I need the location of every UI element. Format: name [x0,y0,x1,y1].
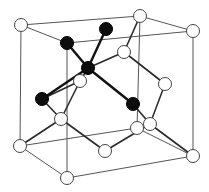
atom [55,113,68,126]
bond [150,124,193,156]
atom [61,172,74,185]
atom [187,150,200,163]
cube-edge [20,128,137,146]
cube-edge [20,25,21,146]
atom [159,78,172,91]
highlighted-atom [127,98,140,111]
highlighted-atom [61,37,74,50]
atom [14,140,27,153]
diamond-cubic-diagram [0,0,209,192]
atom [187,25,200,38]
atom [74,75,87,88]
atom [144,118,157,131]
highlighted-atom [100,23,113,36]
atom [118,46,131,59]
atom [99,145,112,158]
atoms [14,10,200,185]
cube-edge [137,128,193,156]
atom [15,19,28,32]
tetrahedral-bond [88,68,133,104]
cube-edge [67,156,193,178]
cube-edge [21,16,140,25]
cube-edge [20,146,67,178]
atom [131,122,144,135]
cube-edge [140,16,193,31]
atom [134,10,147,23]
cube-edge [21,25,67,43]
bond [61,119,105,151]
bond [124,52,165,84]
bond [20,119,61,146]
highlighted-atom [36,93,49,106]
highlighted-atom [82,62,95,75]
